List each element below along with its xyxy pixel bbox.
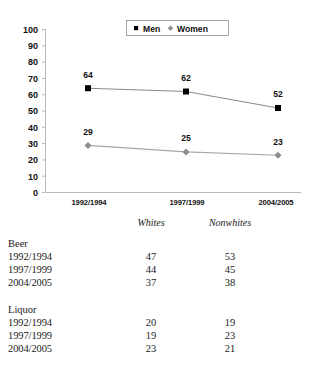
table-row: 2004/2005 37 38: [0, 276, 318, 289]
cell-beer-1992-whites: 47: [112, 250, 190, 263]
y-tick-label-0: 0: [33, 188, 38, 198]
data-label-men-1992: 64: [83, 70, 93, 80]
table-header-nonwhites: Nonwhites: [190, 216, 270, 234]
row-label-beer-1997: 1997/1999: [0, 263, 112, 276]
cell-liquor-1997-nonwhites: 23: [190, 329, 270, 342]
y-tick-label-40: 40: [28, 123, 38, 133]
table-section-beer: Beer: [0, 234, 318, 250]
row-label-beer-1992: 1992/1994: [0, 250, 112, 263]
legend-label-men: Men: [143, 24, 160, 34]
y-tick-label-10: 10: [28, 172, 38, 182]
cell-beer-2004-nonwhites: 38: [190, 276, 270, 289]
cell-liquor-1992-whites: 20: [112, 316, 190, 329]
y-axis-ticks: [42, 30, 46, 193]
table-header-pad: [270, 216, 318, 234]
table-row: 2004/2005 23 21: [0, 342, 318, 355]
table-row: 1992/1994 47 53: [0, 250, 318, 263]
series-point-women-2004: [275, 152, 282, 159]
y-tick-label-50: 50: [28, 106, 38, 116]
series-point-women-1992: [85, 142, 92, 149]
series-point-men-1997: [183, 89, 189, 95]
table-section-liquor: Liquor: [0, 300, 318, 316]
table-row: 1997/1999 19 23: [0, 329, 318, 342]
data-label-women-2004: 23: [273, 137, 283, 147]
cell-liquor-1992-nonwhites: 19: [190, 316, 270, 329]
cell-beer-1992-nonwhites: 53: [190, 250, 270, 263]
cell-liquor-1997-whites: 19: [112, 329, 190, 342]
chart-canvas: 100 90 80 70 60 50 40 30 20 10 0 64 62 5…: [0, 0, 318, 215]
row-label-liquor-2004: 2004/2005: [0, 342, 112, 355]
x-tick-label-1992: 1992/1994: [72, 198, 108, 207]
row-label-beer-2004: 2004/2005: [0, 276, 112, 289]
cell-liquor-2004-nonwhites: 21: [190, 342, 270, 355]
series-line-women: [88, 145, 278, 155]
beer-liquor-table: Whites Nonwhites Beer 1992/1994 47 53 19…: [0, 216, 318, 355]
y-tick-label-60: 60: [28, 90, 38, 100]
data-label-women-1992: 29: [83, 127, 93, 137]
row-label-liquor-1997: 1997/1999: [0, 329, 112, 342]
x-tick-label-2004: 2004/2005: [259, 198, 295, 207]
table-row: 1997/1999 44 45: [0, 263, 318, 276]
cell-beer-1997-nonwhites: 45: [190, 263, 270, 276]
cell-beer-1997-whites: 44: [112, 263, 190, 276]
chart-legend: Men Women: [127, 21, 229, 36]
x-tick-label-1997: 1997/1999: [170, 198, 205, 207]
section-title-liquor: Liquor: [0, 300, 318, 316]
cell-liquor-2004-whites: 23: [112, 342, 190, 355]
y-tick-label-90: 90: [28, 41, 38, 51]
table-header-whites: Whites: [112, 216, 190, 234]
line-chart-figure: 100 90 80 70 60 50 40 30 20 10 0 64 62 5…: [0, 0, 318, 215]
y-tick-label-100: 100: [23, 25, 38, 35]
table-header-blank: [0, 216, 112, 234]
row-label-liquor-1992: 1992/1994: [0, 316, 112, 329]
cell-beer-2004-whites: 37: [112, 276, 190, 289]
series-point-women-1997: [183, 148, 190, 155]
data-label-women-1997: 25: [181, 133, 191, 143]
y-tick-label-30: 30: [28, 139, 38, 149]
series-point-men-1992: [85, 85, 91, 91]
table-row: 1992/1994 20 19: [0, 316, 318, 329]
legend-label-women: Women: [177, 24, 208, 34]
data-table-container: Whites Nonwhites Beer 1992/1994 47 53 19…: [0, 216, 318, 355]
y-tick-label-20: 20: [28, 155, 38, 165]
data-label-men-2004: 52: [273, 89, 283, 99]
table-header-row: Whites Nonwhites: [0, 216, 318, 234]
y-tick-label-80: 80: [28, 57, 38, 67]
table-spacer: [0, 289, 318, 300]
legend-square-marker-icon: [134, 26, 138, 30]
y-tick-label-70: 70: [28, 74, 38, 84]
data-label-men-1997: 62: [181, 73, 191, 83]
series-point-men-2004: [275, 105, 281, 111]
section-title-beer: Beer: [0, 234, 318, 250]
